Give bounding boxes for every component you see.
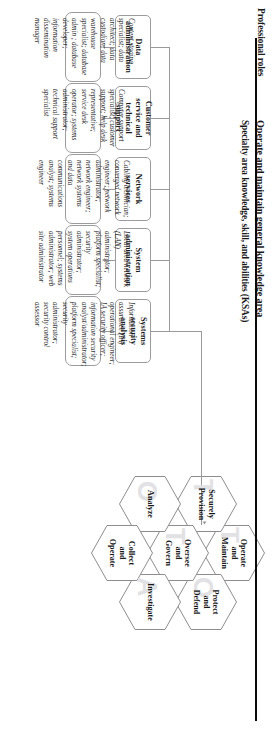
category-hexagon-label: Oversee and Govern (164, 534, 193, 572)
category-hexagon-label: Collect and Operate (108, 534, 137, 572)
page-edge-rule (255, 38, 257, 721)
connector-drop-to-specialty-4 (151, 260, 170, 261)
connector-spine-vertical (170, 331, 203, 332)
connector-drop-to-specialty-2 (151, 118, 170, 119)
ksa-row-label: Specialty area knowledge, skill, and abi… (240, 120, 250, 322)
category-hexagon-label: Operate and Maintain (220, 532, 249, 574)
category-hexagon-label: Analyze (145, 485, 155, 523)
professional-role-label: Content staging specialist; data archite… (31, 18, 134, 76)
figure-rotation-wrapper: Operate and maintain general knowledge a… (0, 0, 272, 733)
category-hexagon-label: Securely Provision (196, 483, 215, 526)
professional-role-label: Local area network (LAN) administrator; … (36, 231, 130, 289)
professional-role-label: Computer support specialist; customer su… (41, 89, 126, 147)
professional-role-box-data-administration[interactable]: Content staging specialist; data archite… (65, 12, 101, 82)
professional-roles-row-label: Professional roles (256, 8, 266, 76)
professional-role-label: Information assurance (IA) operational e… (31, 302, 134, 367)
professional-role-box-network-services[interactable]: Cabling technician; converged network en… (65, 154, 101, 224)
connector-drop-to-specialty-1 (151, 47, 170, 48)
page-title: Operate and maintain general knowledge a… (255, 120, 266, 317)
category-hexagon-label: Protect and Defend (192, 584, 221, 619)
connector-drop-to-specialty-3 (151, 189, 170, 190)
professional-role-box-systems-security-analysis[interactable]: Information assurance (IA) operational e… (65, 296, 101, 366)
professional-role-box-system-administration[interactable]: Local area network (LAN) administrator; … (65, 225, 101, 295)
category-hexagon-collect-and-operate[interactable]: Collect and Operate (90, 524, 154, 582)
professional-role-box-customer-service[interactable]: Computer support specialist; customer su… (65, 83, 101, 153)
diagram-canvas: Operate and maintain general knowledge a… (0, 0, 272, 733)
category-hexagon-label: Investigate (145, 578, 155, 626)
connector-drop-to-specialty-5 (151, 331, 170, 332)
professional-role-label: Cabling technician; converged network en… (36, 160, 130, 218)
